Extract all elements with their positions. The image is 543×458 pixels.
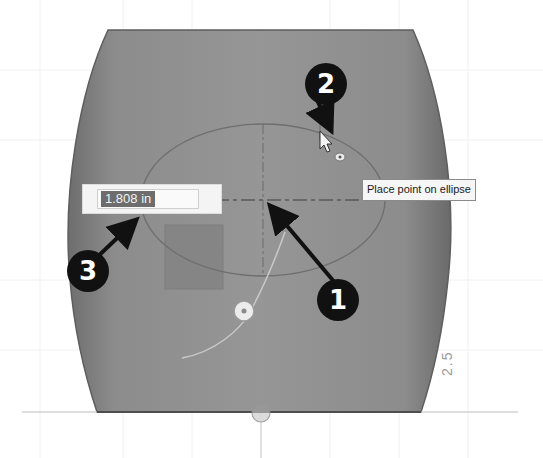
origin-point[interactable] — [252, 404, 270, 422]
dimension-input-box: 1.808 in — [82, 184, 222, 214]
callout-1: 1 — [317, 279, 359, 321]
tooltip: Place point on ellipse — [362, 179, 476, 201]
sketch-rectangle[interactable] — [165, 225, 223, 289]
callout-3: 3 — [67, 250, 109, 292]
callout-2: 2 — [305, 63, 347, 105]
dimension-input[interactable]: 1.808 in — [97, 189, 199, 209]
construction-point[interactable] — [234, 301, 254, 321]
ruler-label: 2.5 — [439, 351, 455, 376]
dimension-value[interactable]: 1.808 in — [101, 191, 155, 207]
part-body[interactable] — [68, 30, 451, 412]
sketch-canvas[interactable] — [0, 0, 543, 458]
snap-point[interactable] — [335, 153, 345, 161]
